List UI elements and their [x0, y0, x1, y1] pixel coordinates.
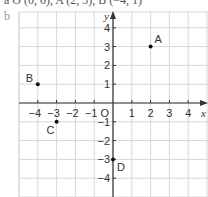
y-axis-label: y: [103, 10, 109, 22]
x-tick-label: 4: [185, 107, 191, 119]
point-c: [55, 120, 59, 124]
point-a: [149, 45, 153, 49]
y-tick-label: −3: [97, 153, 110, 165]
y-tick-label: −2: [97, 135, 110, 147]
y-tick-label: 4: [104, 22, 110, 34]
x-tick-label: −1: [85, 107, 98, 119]
x-tick-label: −2: [66, 107, 79, 119]
x-tick-label: −3: [47, 107, 60, 119]
y-tick-label: 3: [104, 41, 110, 53]
point-label: A: [155, 33, 163, 45]
y-tick-label: 1: [104, 78, 110, 90]
origin-label: O: [100, 107, 109, 119]
y-tick-label: 2: [104, 59, 110, 71]
x-tick-label: 2: [148, 107, 154, 119]
axes: [19, 11, 208, 197]
coordinate-grid: −4−3−2−112344321−1−2−3−4Oxy ABCD: [0, 0, 208, 197]
point-label: D: [117, 161, 125, 173]
point-label: C: [47, 124, 55, 136]
x-tick-label: 3: [166, 107, 172, 119]
x-axis-label: x: [200, 107, 206, 119]
x-tick-label: −4: [29, 107, 42, 119]
point-label: B: [26, 72, 33, 84]
y-tick-label: −4: [97, 172, 110, 184]
point-b: [36, 82, 40, 86]
x-tick-label: 1: [129, 107, 135, 119]
tick-labels: −4−3−2−112344321−1−2−3−4Oxy: [29, 10, 206, 184]
point-d: [111, 157, 115, 161]
